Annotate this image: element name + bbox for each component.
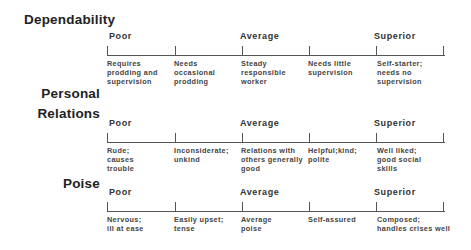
scale-tick [309, 133, 310, 143]
descriptor-3: Steady responsible worker [241, 60, 307, 87]
scale-tick [309, 202, 310, 212]
descriptor-5: Composed; handles crises well [377, 216, 467, 234]
scale-tick [175, 46, 176, 56]
scale-tick [376, 202, 377, 212]
descriptor-5: Well liked; good social skills [377, 147, 443, 174]
scale-tick [443, 46, 444, 56]
anchor-superior: Superior [374, 119, 416, 128]
scale-tick [175, 133, 176, 143]
scale-tick [175, 202, 176, 212]
category-title: Poise [63, 177, 100, 191]
category-title-line1: Personal [41, 87, 100, 101]
descriptor-1: Nervous; ill at ease [107, 216, 173, 234]
descriptor-4: Needs little supervision [308, 60, 374, 78]
descriptor-2: Needs occasional prodding [174, 60, 240, 87]
descriptor-1: Requires prodding and supervision [107, 60, 173, 87]
anchor-superior: Superior [374, 32, 416, 41]
category-title: Dependability [24, 13, 115, 27]
anchor-superior: Superior [374, 188, 416, 197]
category-title-line2: Relations [37, 107, 100, 121]
anchor-average: Average [240, 32, 279, 41]
anchor-average: Average [240, 188, 279, 197]
descriptor-4: Helpful;kind; polite [308, 147, 374, 165]
descriptor-1: Rude; causes trouble [107, 147, 173, 174]
descriptor-3: Average poise [241, 216, 307, 234]
scale-tick [107, 46, 108, 56]
anchor-poor: Poor [109, 32, 132, 41]
scale-tick [376, 133, 377, 143]
anchor-poor: Poor [109, 119, 132, 128]
anchor-poor: Poor [109, 188, 132, 197]
scale-line [107, 211, 445, 212]
anchor-average: Average [240, 119, 279, 128]
descriptor-5: Self-starter; needs no supervision [377, 60, 443, 87]
descriptor-2: Easily upset; tense [174, 216, 240, 234]
scale-line [107, 55, 445, 56]
scale-tick [107, 133, 108, 143]
descriptor-3: Relations with others generally good [241, 147, 311, 174]
scale-tick [242, 46, 243, 56]
scale-line [107, 142, 445, 143]
scale-tick [242, 202, 243, 212]
scale-tick [242, 133, 243, 143]
scale-tick [107, 202, 108, 212]
scale-tick [309, 46, 310, 56]
scale-tick [443, 202, 444, 212]
scale-tick [376, 46, 377, 56]
scale-tick [443, 133, 444, 143]
descriptor-2: Inconsiderate; unkind [174, 147, 240, 165]
descriptor-4: Self-assured [308, 216, 374, 225]
